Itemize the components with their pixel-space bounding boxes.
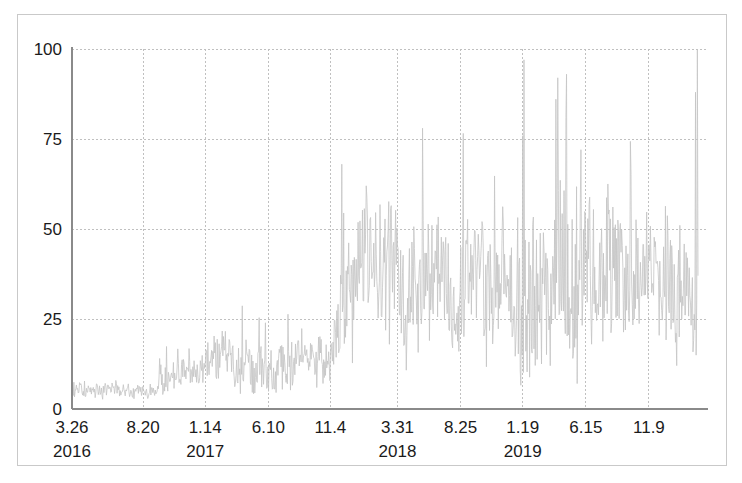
x-tick-label: 3.31 [381,418,414,437]
y-tick-label: 25 [43,310,62,329]
y-axis-tick-labels: 0255075100 [34,40,62,419]
y-tick-label: 50 [43,220,62,239]
x-tick-label: 3.26 [55,418,88,437]
x-tick-year-label: 2016 [53,442,91,461]
x-tick-label: 8.25 [444,418,477,437]
series-line-value [72,49,698,399]
y-tick-label: 0 [53,400,62,419]
x-tick-label: 1.19 [506,418,539,437]
x-tick-label: 6.10 [252,418,285,437]
x-tick-label: 11.4 [314,418,346,437]
y-tick-label: 75 [43,130,62,149]
y-tick-label: 100 [34,40,62,59]
line-chart: 0255075100 3.2620168.201.1420176.1011.43… [18,15,728,467]
series-layer [72,49,698,399]
x-tick-label: 1.14 [189,418,222,437]
x-tick-label: 8.20 [127,418,160,437]
x-tick-label: 6.15 [569,418,602,437]
figure-root: 0255075100 3.2620168.201.1420176.1011.43… [0,0,742,483]
x-tick-year-label: 2018 [379,442,417,461]
x-tick-year-label: 2017 [186,442,224,461]
x-tick-label: 11.9 [633,418,665,437]
x-tick-year-label: 2019 [504,442,542,461]
x-axis-tick-labels: 3.2620168.201.1420176.1011.43.3120188.25… [53,418,665,461]
chart-outer-frame: 0255075100 3.2620168.201.1420176.1011.43… [17,14,727,466]
